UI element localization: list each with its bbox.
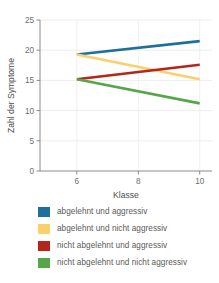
legend-item[interactable]: nicht abgelehnt und nicht aggressiv [0,254,219,271]
legend-item[interactable]: abgelehnt und aggressiv [0,203,219,220]
legend-item-label: abgelehnt und nicht aggressiv [57,224,167,233]
legend-item[interactable]: nicht abgelehnt und aggressiv [0,237,219,254]
legend-swatch-icon [38,258,50,268]
line-chart-svg: 05101520256810KlasseZahl der Symptome [0,0,219,200]
legend-swatch-icon [38,207,50,217]
y-tick-label: 25 [25,16,35,25]
chart-figure: 05101520256810KlasseZahl der Symptome ab… [0,0,219,283]
y-tick-label: 10 [25,107,35,116]
legend-swatch-icon [38,241,50,251]
y-tick-label: 15 [25,76,35,85]
legend-item-label: nicht abgelehnt und nicht aggressiv [57,258,187,267]
y-tick-label: 5 [29,137,34,146]
legend-item-label: nicht abgelehnt und aggressiv [57,241,167,250]
legend-item-label: abgelehnt und aggressiv [57,207,147,216]
legend-item[interactable]: abgelehnt und nicht aggressiv [0,220,219,237]
x-tick-label: 8 [136,177,141,186]
y-axis-title: Zahl der Symptome [6,58,16,133]
chart-legend: abgelehnt und aggressiv abgelehnt und ni… [0,203,219,283]
plot-area: 05101520256810KlasseZahl der Symptome [0,0,219,200]
legend-swatch-icon [38,224,50,234]
y-tick-label: 0 [29,167,34,176]
x-tick-label: 10 [195,177,205,186]
y-tick-label: 20 [25,46,35,55]
x-tick-label: 6 [75,177,80,186]
x-axis-title: Klasse [113,190,139,200]
